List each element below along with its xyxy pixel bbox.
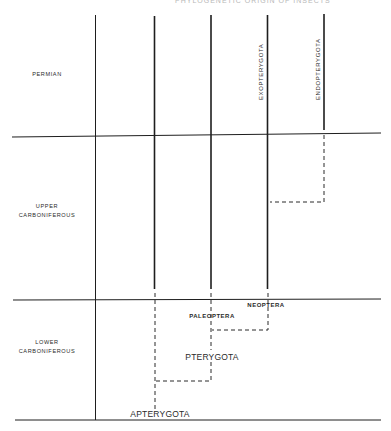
period-label-permian: PERMIAN: [32, 71, 62, 77]
lineage-pterygota-dashed: [156, 362, 211, 381]
phylogeny-diagram: PHYLOGENETIC ORIGIN OF INSECTS PERMIAN U…: [0, 0, 391, 431]
running-header: PHYLOGENETIC ORIGIN OF INSECTS: [175, 0, 331, 4]
boundary-upper-lower-carboniferous: [13, 299, 381, 300]
period-label-lower: LOWER: [35, 339, 59, 345]
taxon-label-endopterygota: ENDOPTERYGOTA: [315, 38, 321, 100]
taxon-label-neoptera: NEOPTERA: [247, 302, 285, 308]
taxon-label-pterygota: PTERYGOTA: [185, 352, 239, 362]
taxon-label-apterygota: APTERYGOTA: [130, 409, 189, 419]
lineage-neoptera-dashed: [212, 293, 268, 330]
boundary-permian-upper-carboniferous: [12, 133, 381, 137]
taxon-label-paleoptera: PALEOPTERA: [189, 313, 235, 319]
period-label-lower-carboniferous: CARBONIFEROUS: [19, 348, 76, 354]
period-label-upper-carboniferous: CARBONIFEROUS: [19, 212, 76, 218]
period-label-upper: UPPER: [36, 203, 58, 209]
taxon-label-exopterygota: EXOPTERYGOTA: [258, 44, 264, 100]
lineage-endopterygota-dashed: [270, 135, 324, 202]
